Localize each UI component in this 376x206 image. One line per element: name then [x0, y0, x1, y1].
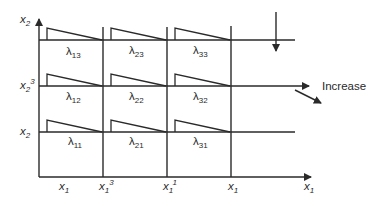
increase-label: Increase	[322, 80, 366, 92]
triangle-12	[47, 74, 102, 86]
cell-label-21: λ21	[129, 135, 144, 150]
y-axis-label: x2	[19, 13, 31, 28]
triangle-32	[175, 74, 230, 86]
cell-label-12: λ12	[66, 90, 81, 105]
x-axis-label: x1	[303, 180, 314, 195]
triangle-13	[47, 28, 102, 40]
triangle-31	[175, 120, 230, 132]
triangle-33	[175, 28, 230, 40]
triangle-11	[47, 120, 102, 132]
cell-label-23: λ23	[129, 44, 144, 59]
row-label-x2-3: x23	[19, 77, 35, 94]
triangle-22	[111, 74, 166, 86]
row-label-x2: x2	[19, 125, 31, 140]
col-label-x1-end: x1	[227, 180, 238, 195]
cell-label-33: λ33	[193, 44, 208, 59]
col-label-x1-3: x13	[98, 178, 114, 195]
col-label-x1-1: x11	[162, 178, 177, 195]
diagonal-arrow-icon	[295, 90, 321, 103]
triangle-21	[111, 120, 166, 132]
cell-label-32: λ32	[193, 90, 208, 105]
cell-label-31: λ31	[193, 135, 208, 150]
cell-label-22: λ22	[129, 90, 144, 105]
diagram-canvas: Increase x2 x23 x2 x1 x13 x11 x1 x1 λ13 …	[0, 0, 376, 206]
cell-label-11: λ11	[68, 135, 83, 150]
triangle-23	[111, 28, 166, 40]
cell-label-13: λ13	[66, 45, 81, 60]
col-label-x1: x1	[58, 180, 69, 195]
